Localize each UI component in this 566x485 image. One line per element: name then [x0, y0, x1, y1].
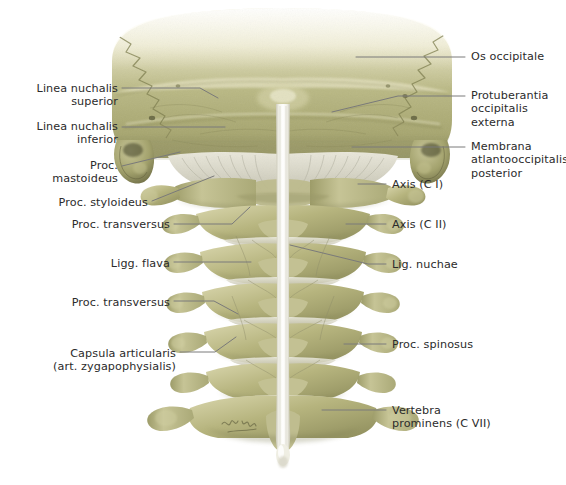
label-proc-transversus-lower: Proc. transversus — [52, 296, 170, 309]
label-membrana-atlantooccipitalis: Membrana atlantooccipitalis posterior — [471, 140, 566, 180]
label-axis-c2: Axis (C II) — [392, 218, 502, 231]
label-axis-c1: Axis (C I) — [392, 178, 502, 191]
label-os-occipitale: Os occipitale — [471, 50, 566, 63]
label-proc-transversus-upper: Proc. transversus — [52, 218, 170, 231]
label-vertebra-prominens: Vertebra prominens (C VII) — [392, 404, 512, 431]
anatomy-figure: Linea nuchalis superior Linea nuchalis i… — [0, 0, 566, 485]
label-ligg-flava: Ligg. flava — [108, 257, 170, 270]
label-linea-nuchalis-superior: Linea nuchalis superior — [14, 82, 118, 109]
label-proc-spinosus: Proc. spinosus — [392, 338, 502, 351]
label-proc-styloideus: Proc. styloideus — [30, 196, 148, 209]
label-capsula-articularis: Capsula articularis (art. zygapophysiali… — [38, 347, 176, 374]
label-linea-nuchalis-inferior: Linea nuchalis inferior — [14, 120, 118, 147]
label-protuberantia-occipitalis: Protuberantia occipitalis externa — [471, 89, 566, 129]
label-lig-nuchae: Lig. nuchae — [392, 258, 502, 271]
label-proc-mastoideus: Proc. mastoideus — [34, 159, 118, 186]
ligamentum-nuchae — [276, 104, 290, 468]
